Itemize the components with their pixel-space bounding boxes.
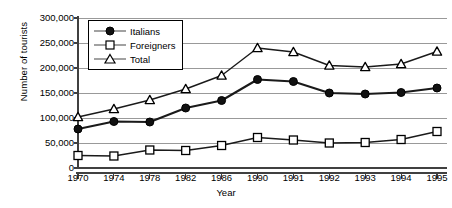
x-tick-label: 1990: [238, 172, 278, 183]
data-point: [110, 152, 118, 160]
x-tick-label: 1982: [166, 172, 206, 183]
data-point: [218, 142, 226, 150]
data-point: [217, 71, 226, 79]
chart-container: Number of tourists 0 50,000 100,000 150,…: [0, 0, 452, 208]
data-point: [433, 128, 441, 136]
data-point: [397, 136, 405, 144]
legend-label: Total: [130, 54, 150, 65]
legend-label: Foreigners: [130, 40, 175, 51]
data-point: [253, 43, 262, 51]
data-point: [289, 78, 297, 86]
data-point: [325, 89, 333, 97]
legend-label: Italians: [130, 26, 160, 37]
x-tick-label: 1978: [130, 172, 170, 183]
data-point: [182, 147, 190, 155]
legend: Italians Foreigners Total: [88, 20, 183, 70]
data-point: [74, 152, 82, 160]
legend-marker-filled-circle-icon: [93, 24, 127, 38]
x-tick-label: 1986: [202, 172, 242, 183]
data-point: [397, 89, 405, 97]
legend-item-foreigners: Foreigners: [93, 38, 175, 52]
legend-item-italians: Italians: [93, 24, 175, 38]
x-tick-label: 1992: [309, 172, 349, 183]
data-point: [432, 47, 441, 55]
data-point: [289, 136, 297, 144]
x-tick-label: 1995: [417, 172, 452, 183]
data-point: [325, 139, 333, 147]
legend-item-total: Total: [93, 52, 175, 66]
x-tick-label: 1970: [58, 172, 98, 183]
x-tick-label: 1974: [94, 172, 134, 183]
x-tick-label: 1994: [381, 172, 421, 183]
data-point: [74, 125, 82, 133]
x-tick-label: 1991: [273, 172, 313, 183]
data-point: [182, 104, 190, 112]
x-axis-title: Year: [0, 187, 452, 198]
legend-marker-open-triangle-icon: [93, 52, 127, 66]
data-point: [433, 84, 441, 92]
data-point: [254, 134, 262, 142]
data-point: [146, 146, 154, 154]
data-point: [218, 97, 226, 105]
data-point: [254, 76, 262, 84]
x-tick-label: 1993: [345, 172, 385, 183]
data-point: [361, 139, 369, 147]
data-point: [110, 118, 118, 126]
data-point: [361, 90, 369, 98]
legend-marker-open-square-icon: [93, 38, 127, 52]
data-point: [146, 118, 154, 126]
